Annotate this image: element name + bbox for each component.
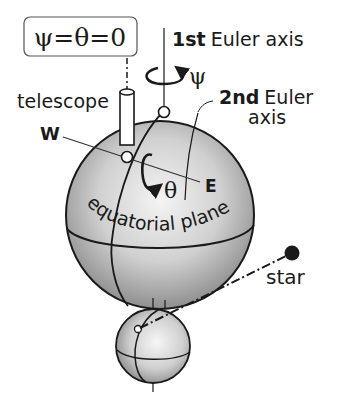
star-icon <box>285 246 300 261</box>
first-euler-axis-label: 1stEuler axis <box>172 28 304 50</box>
second-axis-rest: Euler <box>264 86 313 108</box>
second-euler-axis-label-line2: axis <box>248 106 286 128</box>
first-axis-rest: Euler axis <box>211 28 304 50</box>
second-axis-bold: 2nd <box>219 86 259 108</box>
euler-axes-diagram: ψ=θ=0 ψ 1stEuler axis 2ndEuler axis tele… <box>0 0 340 408</box>
east-label: E <box>205 176 217 196</box>
psi-label: ψ <box>189 64 206 89</box>
pole-node <box>159 107 170 118</box>
telescope-label: telescope <box>17 90 109 112</box>
second-euler-axis-label: 2ndEuler <box>219 86 313 108</box>
telescope-icon <box>120 89 134 145</box>
theta-label: θ <box>164 178 177 203</box>
condition-text: ψ=θ=0 <box>34 23 126 52</box>
condition-box: ψ=θ=0 <box>24 17 137 56</box>
west-label: W <box>40 123 60 144</box>
small-observer-node <box>135 326 142 333</box>
star-label: star <box>266 265 306 289</box>
telescope-node <box>122 152 133 163</box>
second-axis-leader-line <box>198 101 213 112</box>
small-sphere <box>116 309 190 383</box>
first-axis-bold: 1st <box>172 28 206 50</box>
psi-rotation-arrow-icon <box>147 68 184 84</box>
